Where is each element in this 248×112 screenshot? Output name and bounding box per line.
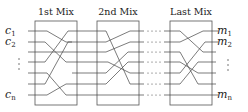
svg-text:mn: mn bbox=[217, 88, 232, 102]
mix-box-2 bbox=[97, 21, 139, 105]
mix-network-diagram: 1st Mix 2nd Mix Last Mix c1 c2 cn m1 m2 … bbox=[0, 0, 248, 112]
mix-last-permutation bbox=[176, 31, 208, 95]
mix-box-last bbox=[170, 21, 212, 105]
input-label-cn: cn bbox=[5, 88, 16, 102]
mix-title-2: 2nd Mix bbox=[98, 6, 138, 17]
mix-title-last: Last Mix bbox=[170, 6, 212, 17]
mix-box-1 bbox=[35, 21, 77, 105]
svg-text:cn: cn bbox=[5, 88, 16, 102]
mix-title-1: 1st Mix bbox=[38, 6, 75, 17]
output-label-mn: mn bbox=[217, 88, 232, 102]
mix-2-permutation bbox=[103, 31, 135, 95]
output-ellipsis bbox=[227, 59, 228, 70]
input-wires bbox=[28, 31, 40, 95]
mix-1-permutation bbox=[40, 31, 72, 95]
input-ellipsis bbox=[18, 58, 19, 69]
